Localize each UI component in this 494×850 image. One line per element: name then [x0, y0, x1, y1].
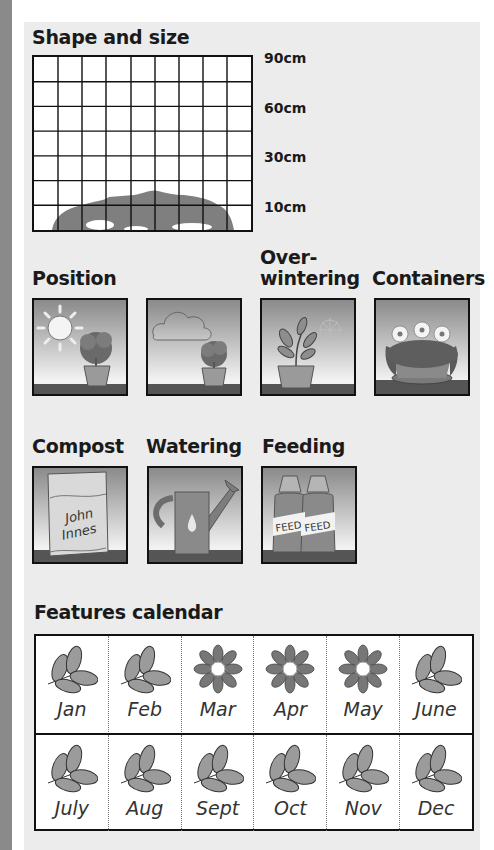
- overwintering-heading-line1: Over-: [260, 247, 317, 267]
- compost-heading: Compost: [32, 436, 124, 456]
- calendar-cell-oct: Oct: [253, 735, 326, 831]
- month-label: Feb: [109, 698, 181, 720]
- calendar-cell-july: July: [36, 735, 108, 831]
- feeding-heading: Feeding: [262, 436, 345, 456]
- foliage-icon: [410, 644, 462, 694]
- calendar-cell-june: June: [399, 636, 472, 732]
- foliage-icon: [46, 743, 98, 793]
- foliage-icon: [46, 644, 98, 694]
- calendar-cell-mar: Mar: [181, 636, 254, 732]
- foliage-icon: [119, 743, 171, 793]
- features-calendar-heading: Features calendar: [34, 602, 222, 622]
- foliage-icon: [410, 743, 462, 793]
- page-edge-strip: [0, 0, 12, 850]
- feed-bottles-icon: FEED FEED: [261, 466, 357, 564]
- position-heading: Position: [32, 268, 117, 288]
- month-label: June: [400, 698, 472, 720]
- compost-bag-icon: John Innes: [32, 466, 128, 564]
- month-label: Nov: [327, 797, 399, 819]
- calendar-cell-feb: Feb: [108, 636, 181, 732]
- height-label-60: 60cm: [264, 100, 306, 116]
- plant-silhouette-grid-graphic: [34, 57, 251, 230]
- calendar-cell-sept: Sept: [181, 735, 254, 831]
- month-label: Jan: [36, 698, 108, 720]
- frost-protect-icon: [260, 298, 356, 396]
- month-label: Dec: [400, 797, 472, 819]
- flower-icon: [338, 644, 388, 694]
- partial-shade-icon: [146, 298, 242, 396]
- month-label: Apr: [254, 698, 326, 720]
- height-label-10: 10cm: [264, 199, 306, 215]
- month-label: Mar: [182, 698, 254, 720]
- foliage-icon: [192, 743, 244, 793]
- calendar-cell-aug: Aug: [108, 735, 181, 831]
- containers-heading: Containers: [372, 268, 485, 288]
- calendar-row-1: Jan Feb Mar Apr May June: [36, 636, 472, 732]
- watering-can-icon: [147, 466, 243, 564]
- watering-heading: Watering: [146, 436, 242, 456]
- foliage-icon: [337, 743, 389, 793]
- month-label: Oct: [254, 797, 326, 819]
- calendar-cell-nov: Nov: [326, 735, 399, 831]
- full-sun-icon: [32, 298, 128, 396]
- month-label: July: [36, 797, 108, 819]
- calendar-cell-dec: Dec: [399, 735, 472, 831]
- month-label: May: [327, 698, 399, 720]
- foliage-icon: [264, 743, 316, 793]
- features-calendar: Jan Feb Mar Apr May June July Aug: [34, 634, 474, 831]
- overwintering-heading-line2: wintering: [260, 268, 360, 288]
- height-label-90: 90cm: [264, 50, 306, 66]
- calendar-cell-jan: Jan: [36, 636, 108, 732]
- month-label: Sept: [182, 797, 254, 819]
- foliage-icon: [119, 644, 171, 694]
- flower-icon: [193, 644, 243, 694]
- flower-icon: [265, 644, 315, 694]
- shape-size-heading: Shape and size: [32, 27, 189, 47]
- shape-size-grid: [32, 55, 253, 232]
- calendar-row-2: July Aug Sept Oct Nov Dec: [36, 733, 472, 831]
- height-label-30: 30cm: [264, 149, 306, 165]
- calendar-cell-apr: Apr: [253, 636, 326, 732]
- container-plant-icon: [374, 298, 470, 396]
- month-label: Aug: [109, 797, 181, 819]
- calendar-cell-may: May: [326, 636, 399, 732]
